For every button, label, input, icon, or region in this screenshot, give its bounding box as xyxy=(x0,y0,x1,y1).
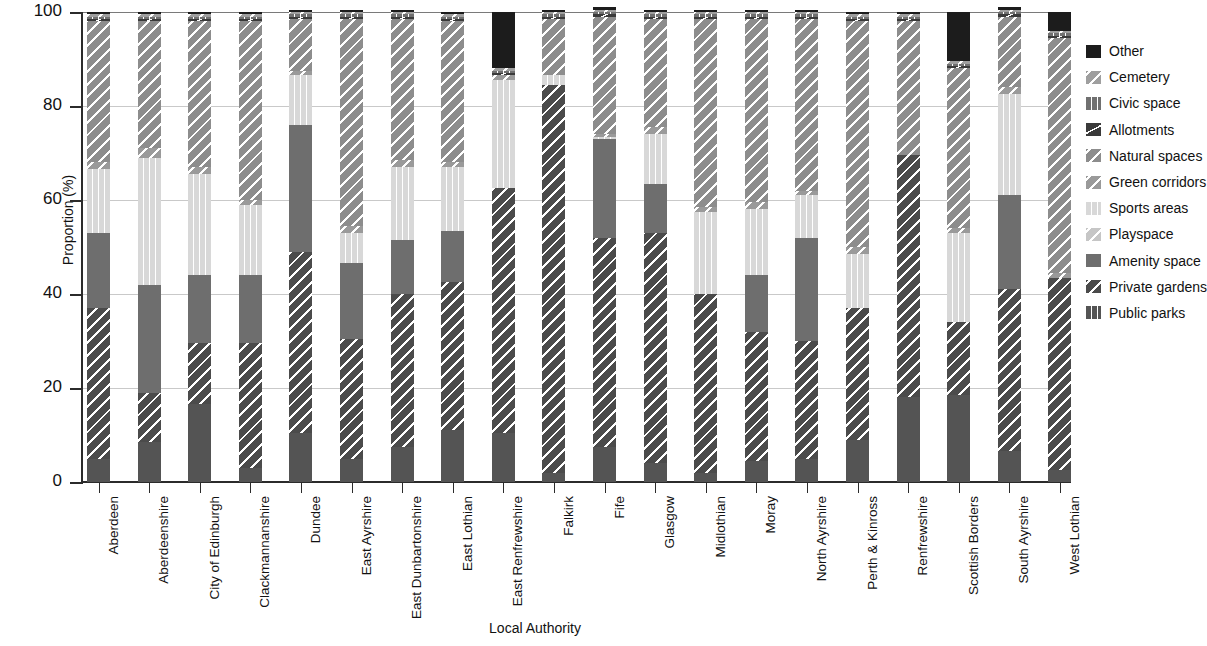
bar-segment xyxy=(1048,278,1071,471)
bar-segment xyxy=(593,134,616,136)
bar-segment xyxy=(947,68,970,228)
bar-segment xyxy=(138,285,161,393)
bar-segment xyxy=(87,308,110,458)
bar-stack[interactable] xyxy=(846,12,869,482)
legend-item[interactable]: Natural spaces xyxy=(1086,143,1206,169)
y-axis-tick-mark xyxy=(70,106,81,108)
bar-segment xyxy=(542,10,565,12)
bar-stack[interactable] xyxy=(998,12,1021,482)
chart-legend: OtherCemeteryCivic spaceAllotmentsNatura… xyxy=(1086,38,1206,326)
bar-segment xyxy=(947,12,970,61)
bar-stack[interactable] xyxy=(795,12,818,482)
bar-stack[interactable] xyxy=(542,12,565,482)
legend-item-label: Green corridors xyxy=(1109,174,1206,190)
bar-stack[interactable] xyxy=(289,12,312,482)
bar-stack[interactable] xyxy=(188,12,211,482)
bar-segment xyxy=(188,19,211,21)
bar-stack[interactable] xyxy=(644,12,667,482)
bar-segment xyxy=(644,12,667,14)
y-axis-tick-label: 20 xyxy=(14,377,62,397)
x-axis-category-label: East Dunbartonshire xyxy=(409,496,424,619)
x-axis-tick-mark xyxy=(99,483,100,493)
bar-segment xyxy=(391,12,414,14)
bar-segment xyxy=(998,94,1021,195)
legend-item[interactable]: Green corridors xyxy=(1086,169,1206,195)
bar-segment xyxy=(492,80,515,188)
bar-stack[interactable] xyxy=(391,12,414,482)
legend-item[interactable]: Public parks xyxy=(1086,300,1206,326)
bar-stack[interactable] xyxy=(593,12,616,482)
x-axis-tick-mark xyxy=(959,483,960,493)
bar-segment xyxy=(998,17,1021,88)
bar-segment xyxy=(745,461,768,482)
bar-segment xyxy=(745,12,768,14)
bar-stack[interactable] xyxy=(87,12,110,482)
legend-item-label: Sports areas xyxy=(1109,200,1188,216)
legend-item[interactable]: Private gardens xyxy=(1086,274,1206,300)
bar-segment xyxy=(644,233,667,463)
x-axis-tick-mark xyxy=(149,483,150,493)
bar-segment xyxy=(239,468,262,482)
x-axis-category-label: City of Edinburgh xyxy=(207,496,222,600)
bar-segment xyxy=(542,14,565,16)
legend-item[interactable]: Other xyxy=(1086,38,1206,64)
legend-swatch-icon xyxy=(1086,306,1101,319)
bar-segment xyxy=(239,19,262,21)
bar-segment xyxy=(441,21,464,162)
bar-segment xyxy=(795,459,818,483)
bar-stack[interactable] xyxy=(694,12,717,482)
y-axis-tick-label: 80 xyxy=(14,95,62,115)
legend-item-label: Amenity space xyxy=(1109,253,1201,269)
bar-stack[interactable] xyxy=(239,12,262,482)
legend-item[interactable]: Allotments xyxy=(1086,117,1206,143)
x-axis-tick-mark xyxy=(200,483,201,493)
bar-segment xyxy=(289,14,312,16)
bar-segment xyxy=(492,12,515,68)
bar-segment xyxy=(87,19,110,21)
legend-item[interactable]: Amenity space xyxy=(1086,248,1206,274)
bar-segment xyxy=(188,174,211,275)
x-axis-category-label: East Lothian xyxy=(460,496,475,571)
bar-segment xyxy=(947,395,970,482)
y-axis-line xyxy=(81,12,83,484)
bar-segment xyxy=(745,14,768,16)
bar-stack[interactable] xyxy=(340,12,363,482)
bar-segment xyxy=(340,263,363,338)
bar-stack[interactable] xyxy=(441,12,464,482)
bar-segment xyxy=(289,19,312,71)
bar-segment xyxy=(289,10,312,12)
bar-stack[interactable] xyxy=(1048,12,1071,482)
bar-stack[interactable] xyxy=(138,12,161,482)
bar-segment xyxy=(745,19,768,202)
bar-stack[interactable] xyxy=(492,12,515,482)
bar-segment xyxy=(542,473,565,482)
bar-segment xyxy=(188,12,211,14)
bar-segment xyxy=(846,12,869,14)
legend-item[interactable]: Sports areas xyxy=(1086,195,1206,221)
bar-segment xyxy=(593,7,616,9)
y-axis-tick-label: 40 xyxy=(14,283,62,303)
legend-item[interactable]: Civic space xyxy=(1086,90,1206,116)
bar-segment xyxy=(1048,38,1071,273)
x-axis-category-label: Fife xyxy=(612,496,627,519)
bar-segment xyxy=(1048,31,1071,33)
bar-stack[interactable] xyxy=(947,12,970,482)
legend-item[interactable]: Playspace xyxy=(1086,221,1206,247)
bar-segment xyxy=(846,19,869,21)
x-axis-category-label: Falkirk xyxy=(561,496,576,536)
bar-segment xyxy=(391,294,414,447)
bar-stack[interactable] xyxy=(745,12,768,482)
x-axis-tick-mark xyxy=(807,483,808,493)
bar-stack[interactable] xyxy=(897,12,920,482)
bar-segment xyxy=(391,17,414,19)
bar-segment xyxy=(391,447,414,482)
legend-item[interactable]: Cemetery xyxy=(1086,64,1206,90)
bar-segment xyxy=(846,17,869,19)
bar-segment xyxy=(795,195,818,237)
x-axis-category-label: East Ayrshire xyxy=(359,496,374,575)
bar-segment xyxy=(846,254,869,308)
bar-segment xyxy=(745,10,768,12)
bar-segment xyxy=(846,247,869,254)
bar-segment xyxy=(87,12,110,14)
bar-segment xyxy=(745,332,768,461)
